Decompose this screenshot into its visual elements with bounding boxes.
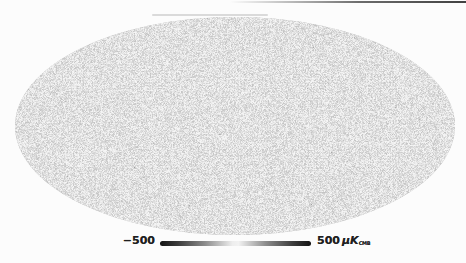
colorbar-unit-label: μKCMB [342,235,370,249]
scan-artifact-smudge [152,14,268,16]
sky-map-ellipse [10,12,460,240]
colorbar-min-label: −500 [115,235,155,246]
colorbar-unit-subscript: CMB [359,240,371,246]
sky-map-svg [0,0,466,263]
colorbar-max-label: 500 [317,235,340,246]
colorbar-gradient-bar [160,241,311,246]
cmb-figure: −500 500 μKCMB [0,0,466,263]
colorbar-unit-symbol: μK [342,234,359,247]
scan-artifact-line [230,1,466,3]
